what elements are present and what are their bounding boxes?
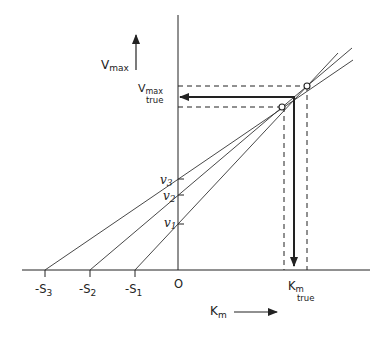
vmax-true-word: true [146, 95, 163, 105]
y-tick-label-v2: v2 [163, 189, 176, 204]
km-true-word: true [297, 293, 314, 303]
y-axis-label: Vmax [101, 58, 130, 73]
x-axis-label: Km [210, 304, 227, 320]
x-tick-label-s1: -S1 [125, 282, 142, 298]
direct-linear-plot: Vmax Vmax true v3 v2 v1 -S3 -S2 -S1 O Km… [0, 0, 388, 338]
km-true-label: Km [288, 279, 304, 294]
intersection-marker-lower [279, 104, 285, 110]
line-3 [45, 60, 353, 270]
x-tick-label-s2: -S2 [79, 282, 96, 298]
y-tick-label-v3: v3 [160, 173, 173, 188]
line-2 [90, 48, 352, 270]
y-tick-label-v1: v1 [164, 216, 177, 231]
vmax-true-label: Vmax [138, 82, 163, 96]
intersection-marker-upper [304, 83, 310, 89]
x-tick-label-s3: -S3 [35, 282, 52, 298]
origin-label: O [174, 277, 183, 291]
